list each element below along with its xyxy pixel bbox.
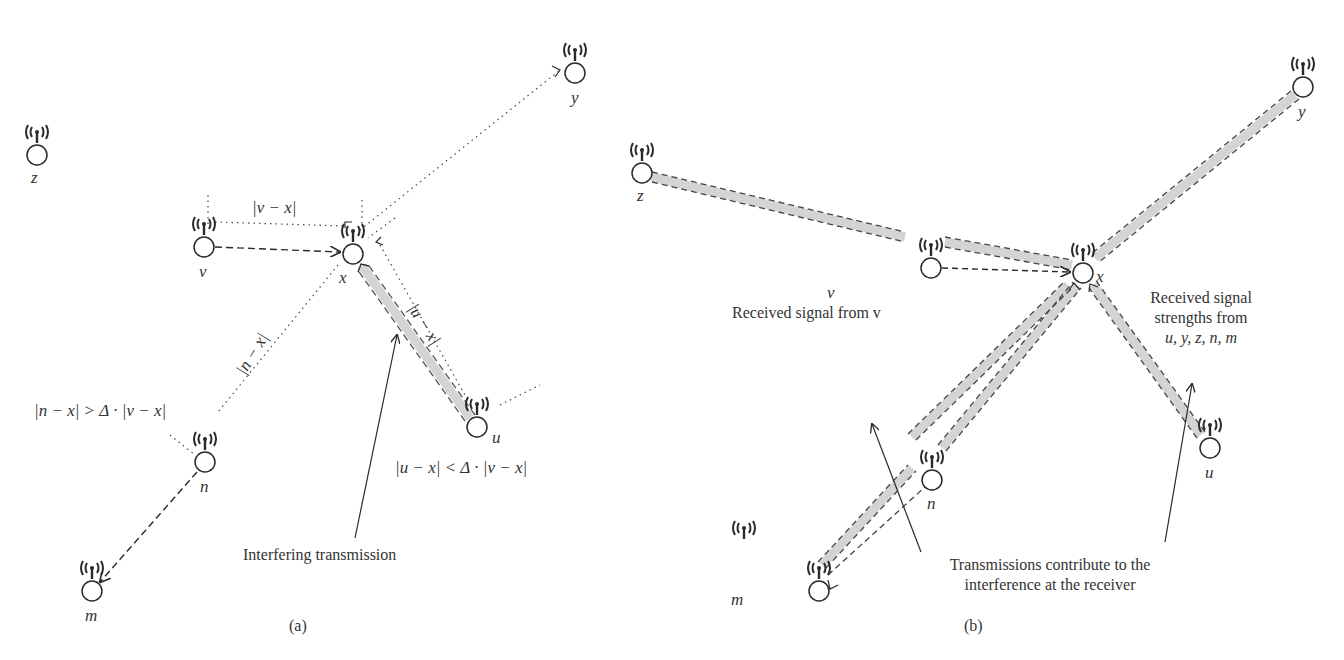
- label-a-x: x: [339, 268, 347, 288]
- annotation-received-from-v: Received signal from v: [732, 304, 881, 322]
- node-a-n: [195, 452, 215, 472]
- panel-a: [26, 43, 586, 601]
- node-b-n: [922, 470, 942, 490]
- label-b-y: y: [1298, 102, 1306, 122]
- caption-a: (a): [289, 617, 307, 635]
- node-a-z: [27, 145, 47, 165]
- condition-u: |u − x| < Δ · |v − x|: [395, 458, 527, 478]
- node-a-m: [82, 581, 102, 601]
- contribute-annotation-arrow-left: [872, 424, 921, 552]
- node-a-x: [343, 244, 363, 264]
- label-b-n: n: [927, 494, 936, 514]
- caption-b: (b): [964, 617, 983, 635]
- distance-v-x: |v − x|: [252, 198, 296, 218]
- label-a-v: v: [199, 262, 207, 282]
- label-b-u: u: [1205, 463, 1214, 483]
- label-b-v: v: [827, 283, 835, 303]
- transmission-n-to-m: [100, 472, 197, 582]
- node-b-x: [1073, 263, 1093, 283]
- node-b-u: [1200, 438, 1220, 458]
- label-b-m: m: [731, 590, 743, 610]
- annotation-transmissions-contribute: Transmissions contribute to the interfer…: [920, 555, 1180, 595]
- transmission-v-to-x: [215, 247, 340, 252]
- dotted-distance-lines: [170, 70, 560, 455]
- node-b-y: [1293, 77, 1313, 97]
- antenna-icons-a: [26, 43, 586, 579]
- interfering-band-u-to-x: [357, 263, 475, 421]
- node-b-v: [921, 258, 941, 278]
- condition-n: |n − x| > Δ · |v − x|: [34, 401, 166, 421]
- annotation-interfering-transmission: Interfering transmission: [243, 546, 396, 564]
- label-a-y: y: [571, 88, 579, 108]
- node-b-z: [632, 163, 652, 183]
- label-a-u: u: [492, 428, 501, 448]
- node-a-u: [467, 417, 487, 437]
- stray-antenna-icon: [733, 521, 755, 539]
- node-b-m: [809, 581, 829, 601]
- node-a-v: [194, 237, 214, 257]
- label-a-n: n: [200, 477, 209, 497]
- node-a-y: [565, 63, 585, 83]
- label-a-z: z: [31, 168, 38, 188]
- annotation-received-strengths: Received signal strengths from u, y, z, …: [1126, 288, 1276, 348]
- label-b-z: z: [637, 186, 644, 206]
- transmission-v-to-x-b: [942, 268, 1070, 272]
- interfering-annotation-arrow: [355, 335, 397, 538]
- label-a-m: m: [85, 606, 97, 626]
- label-b-x: x: [1096, 267, 1104, 287]
